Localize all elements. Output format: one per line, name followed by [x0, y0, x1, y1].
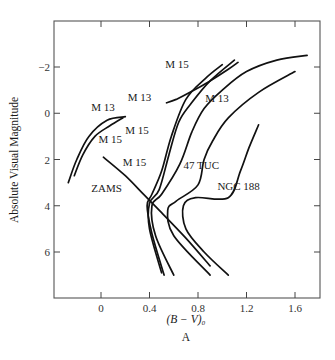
panel-label: A [182, 331, 190, 343]
y-tick-label: 6 [45, 246, 51, 258]
curve-label: M 15 [99, 133, 123, 145]
curve-label: M 15 [123, 156, 147, 168]
curve-label: M 13 [91, 101, 115, 113]
curve-m-13-giant-branch [152, 55, 308, 275]
x-tick-label: 1.6 [288, 302, 302, 314]
hr-diagram: 00.40.81.21.6−20246 M 13M 15ZAMSM 15M 13… [0, 0, 335, 360]
x-tick-label: 1.2 [240, 302, 254, 314]
curve-m-13-horizontal-branch [68, 117, 125, 183]
y-axis-label: Absolute Visual Magnitude [8, 97, 20, 223]
y-tick-label: 0 [45, 107, 51, 119]
curve-label: 47 TUC [183, 159, 219, 171]
curve-label: M 15 [165, 58, 189, 70]
curve-label: M 13 [205, 92, 229, 104]
curve-label: ZAMS [91, 182, 122, 194]
curve-label: M 15 [125, 124, 149, 136]
curve-ngc-188 [183, 125, 259, 275]
y-tick-label: −2 [38, 61, 50, 73]
curve-label: NGC 188 [217, 180, 260, 192]
x-tick-label: 0 [98, 302, 104, 314]
curve-47-tuc [167, 72, 295, 276]
curve-label: M 13 [128, 91, 152, 103]
x-axis-label: (B − V)₀ [166, 313, 205, 325]
x-tick-label: 0.4 [143, 302, 157, 314]
y-tick-label: 2 [45, 154, 51, 166]
y-tick-label: 4 [45, 200, 51, 212]
